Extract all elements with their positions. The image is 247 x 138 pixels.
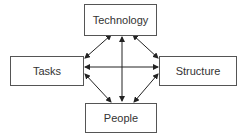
node-people: People <box>85 103 157 133</box>
node-structure: Structure <box>159 56 237 86</box>
arrow-technology-tasks <box>85 35 111 58</box>
node-technology-label: Technology <box>93 14 149 26</box>
node-people-label: People <box>104 112 138 124</box>
node-tasks-label: Tasks <box>33 65 61 77</box>
arrow-structure-people <box>134 74 158 102</box>
arrow-tasks-people <box>85 74 111 102</box>
node-tasks: Tasks <box>10 56 84 86</box>
node-structure-label: Structure <box>176 65 221 77</box>
node-technology: Technology <box>84 4 157 36</box>
arrow-technology-structure <box>133 35 158 58</box>
